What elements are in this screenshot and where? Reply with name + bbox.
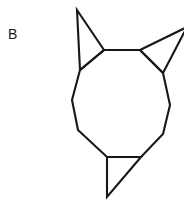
line-drawing-svg	[0, 0, 184, 202]
figure-canvas: B	[0, 0, 184, 202]
upper-right-spike-triangle	[140, 27, 184, 73]
bottom-spike-triangle	[107, 157, 141, 197]
shape-group	[72, 10, 184, 197]
upper-left-spike-triangle	[77, 10, 104, 70]
